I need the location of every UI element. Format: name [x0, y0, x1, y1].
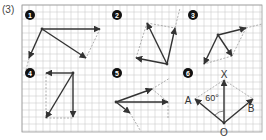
guide-line-fig5 — [152, 89, 168, 102]
origin-point-fig3 — [217, 34, 220, 37]
vector-arrow-fig1 — [29, 29, 42, 58]
origin-point-fig4 — [72, 72, 75, 75]
figure-6-labels: X A B O 60° — [185, 69, 255, 138]
label-a: A — [185, 95, 192, 106]
label-x: X — [221, 69, 228, 80]
label-o: O — [220, 127, 228, 138]
figure-badge-number: 3 — [191, 12, 195, 19]
figure-badge-number: 4 — [28, 70, 32, 77]
guide-line-fig2 — [136, 23, 147, 58]
figure-badge-number: 2 — [115, 12, 119, 19]
origin-point-fig6 — [223, 122, 226, 125]
figure-badge-number: 5 — [115, 70, 119, 77]
angle-label: 60° — [205, 93, 219, 103]
vector-arrow-fig2 — [147, 23, 167, 64]
figure-badge-number: 1 — [28, 12, 32, 19]
origin-point-fig1 — [41, 28, 44, 31]
figure-badge-number: 6 — [186, 70, 190, 77]
guide-line-fig1 — [86, 29, 100, 58]
guide-line-fig2 — [147, 23, 175, 28]
label-b: B — [248, 103, 255, 114]
angle-arc — [215, 111, 224, 115]
vector-arrow-fig2 — [167, 28, 175, 64]
vector-arrow-fig5 — [116, 102, 130, 113]
origin-point-fig2 — [166, 63, 169, 66]
vector-diagram-canvas: 123456 X A B O 60° — [0, 0, 266, 140]
guide-line-fig5 — [130, 113, 140, 130]
origin-point-fig5 — [115, 101, 118, 104]
